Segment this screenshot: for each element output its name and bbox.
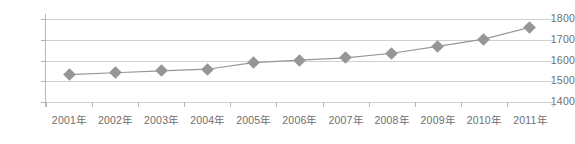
x-axis-tick-mark <box>276 102 277 107</box>
data-point-marker <box>247 56 260 69</box>
data-point-marker <box>63 68 76 81</box>
x-axis-tick-mark <box>138 102 139 107</box>
x-axis-tick-mark <box>369 102 370 107</box>
x-axis-tick-label: 2001年 <box>46 114 92 126</box>
x-axis-tick-mark <box>415 102 416 107</box>
gridline <box>46 102 553 103</box>
x-axis-tick-label: 2003年 <box>138 114 184 126</box>
x-axis-tick-label: 2004年 <box>184 114 230 126</box>
line-chart: 14001500160017001800 2001年2002年2003年2004… <box>0 0 575 144</box>
gridline <box>46 19 553 20</box>
data-point-marker <box>385 47 398 60</box>
x-axis-tick-mark <box>92 102 93 107</box>
data-point-marker <box>201 63 214 76</box>
x-axis-tick-mark <box>507 102 508 107</box>
gridline <box>46 81 553 82</box>
y-axis-tick-label: 1600 <box>533 55 575 66</box>
x-axis-tick-mark <box>553 102 554 107</box>
x-axis-tick-mark <box>230 102 231 107</box>
x-axis-tick-label: 2009年 <box>415 114 461 126</box>
x-axis-tick-mark <box>323 102 324 107</box>
x-axis-tick-mark <box>46 102 47 107</box>
data-point-marker <box>431 40 444 53</box>
x-axis-tick-label: 2005年 <box>230 114 276 126</box>
x-axis-tick-label: 2002年 <box>92 114 138 126</box>
x-axis-tick-label: 2011年 <box>507 114 553 126</box>
x-axis-tick-label: 2006年 <box>276 114 322 126</box>
data-point-marker <box>155 65 168 78</box>
x-axis-tick-mark <box>461 102 462 107</box>
data-point-marker <box>477 33 490 46</box>
x-axis-tick-label: 2007年 <box>323 114 369 126</box>
x-axis-tick-label: 2010年 <box>461 114 507 126</box>
data-point-marker <box>339 51 352 64</box>
data-point-marker <box>293 54 306 67</box>
data-point-marker <box>109 66 122 79</box>
x-axis-tick-label: 2008年 <box>369 114 415 126</box>
x-axis-tick-mark <box>184 102 185 107</box>
